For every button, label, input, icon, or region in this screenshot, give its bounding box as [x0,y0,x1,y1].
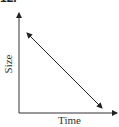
diagram-canvas [0,0,119,127]
x-axis-label: Time [0,114,119,126]
y-axis-label: Size [2,52,14,76]
double-headed-trend-line [27,33,102,108]
